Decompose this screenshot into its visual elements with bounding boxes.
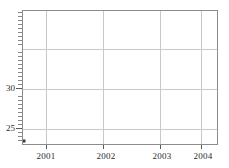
plot-area	[22, 10, 218, 145]
y-minor-tick	[18, 72, 22, 73]
y-minor-tick	[18, 36, 22, 37]
data-point	[23, 140, 26, 143]
y-minor-tick	[18, 132, 22, 133]
y-minor-tick	[18, 140, 22, 141]
y-minor-tick	[18, 56, 22, 57]
y-axis-label-25: 25	[0, 124, 15, 133]
y-minor-tick	[18, 112, 22, 113]
y-minor-tick	[18, 120, 22, 121]
x-axis-label-2001: 2001	[37, 151, 56, 161]
gridline-vertical-2004	[201, 11, 202, 144]
y-minor-tick	[18, 68, 22, 69]
x-tick-2003	[160, 145, 161, 149]
y-tick-30	[16, 88, 22, 89]
y-minor-tick	[18, 104, 22, 105]
y-minor-tick	[18, 20, 22, 21]
y-minor-tick	[18, 108, 22, 109]
y-minor-tick	[18, 12, 22, 13]
chart-figure: 30 25 2001 2002 2003 2004	[0, 0, 229, 168]
y-minor-tick	[18, 32, 22, 33]
y-minor-tick	[18, 84, 22, 85]
x-axis-label-2004: 2004	[194, 151, 213, 161]
gridline-horizontal-25	[23, 129, 217, 130]
y-minor-tick	[18, 52, 22, 53]
y-minor-tick	[18, 60, 22, 61]
gridline-vertical-2003	[160, 11, 161, 144]
y-minor-tick	[18, 136, 22, 137]
x-axis-label-2002: 2002	[97, 151, 116, 161]
y-axis-label-30: 30	[0, 84, 15, 93]
y-minor-tick	[18, 124, 22, 125]
y-minor-tick	[18, 116, 22, 117]
gridline-horizontal-35	[23, 49, 217, 50]
y-minor-tick	[18, 40, 22, 41]
y-minor-tick	[18, 16, 22, 17]
y-tick-25	[16, 128, 22, 129]
gridline-horizontal-30	[23, 89, 217, 90]
y-minor-tick	[18, 24, 22, 25]
x-tick-2004	[201, 145, 202, 149]
gridline-vertical-2002	[103, 11, 104, 144]
x-tick-2002	[103, 145, 104, 149]
y-minor-tick	[18, 96, 22, 97]
y-minor-tick	[18, 28, 22, 29]
y-minor-tick	[18, 44, 22, 45]
gridline-vertical-2001	[46, 11, 47, 144]
y-minor-tick	[18, 64, 22, 65]
y-minor-tick	[18, 76, 22, 77]
x-tick-2001	[46, 145, 47, 149]
y-minor-tick	[18, 100, 22, 101]
x-axis-label-2003: 2003	[153, 151, 172, 161]
y-minor-tick	[18, 80, 22, 81]
